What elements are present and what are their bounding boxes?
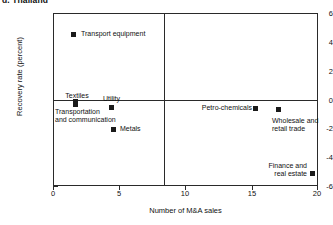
data-label-utility: Utility [95,95,128,103]
data-label-wholesale-line2: retail trade [272,125,305,133]
figure-title: d. Thailand [2,0,48,5]
x-tick-label-15: 15 [237,190,267,198]
data-label-transportation-line1: Transportation [55,108,100,116]
data-point-utility [109,105,114,110]
data-label-wholesale-line1: Wholesale and [272,117,318,125]
y-axis-title: Recovery rate (percent) [15,22,24,132]
data-label-metals: Metals [120,125,141,133]
y-tick-neg6 [54,186,58,187]
data-label-transport-equipment: Transport equipment [81,30,145,38]
plot-area: Transport equipment Textiles Transportat… [53,13,318,186]
data-label-petro-chemicals: Petro-chemicals [189,104,252,112]
x-tick-label-5: 5 [104,190,134,198]
data-label-finance-line2: real estate [249,170,307,178]
data-point-textiles-transportation-cluster [73,99,78,107]
vertical-reference-line [164,14,165,185]
data-point-metals [111,127,116,132]
data-point-petro-chemicals [253,106,258,111]
x-tick-label-10: 10 [170,190,200,198]
data-point-wholesale-retail-trade [276,107,281,112]
data-point-transport-equipment [71,32,76,37]
x-axis-title: Number of M&A sales [53,206,318,215]
x-tick-label-20: 20 [302,190,332,198]
data-label-transportation-line2: and communication [55,116,116,124]
data-point-finance-real-estate [310,171,315,176]
x-tick-label-0: 0 [38,190,68,198]
zero-reference-line [54,100,317,101]
data-label-textiles: Textiles [57,92,97,100]
data-label-finance-line1: Finance and [249,162,307,170]
